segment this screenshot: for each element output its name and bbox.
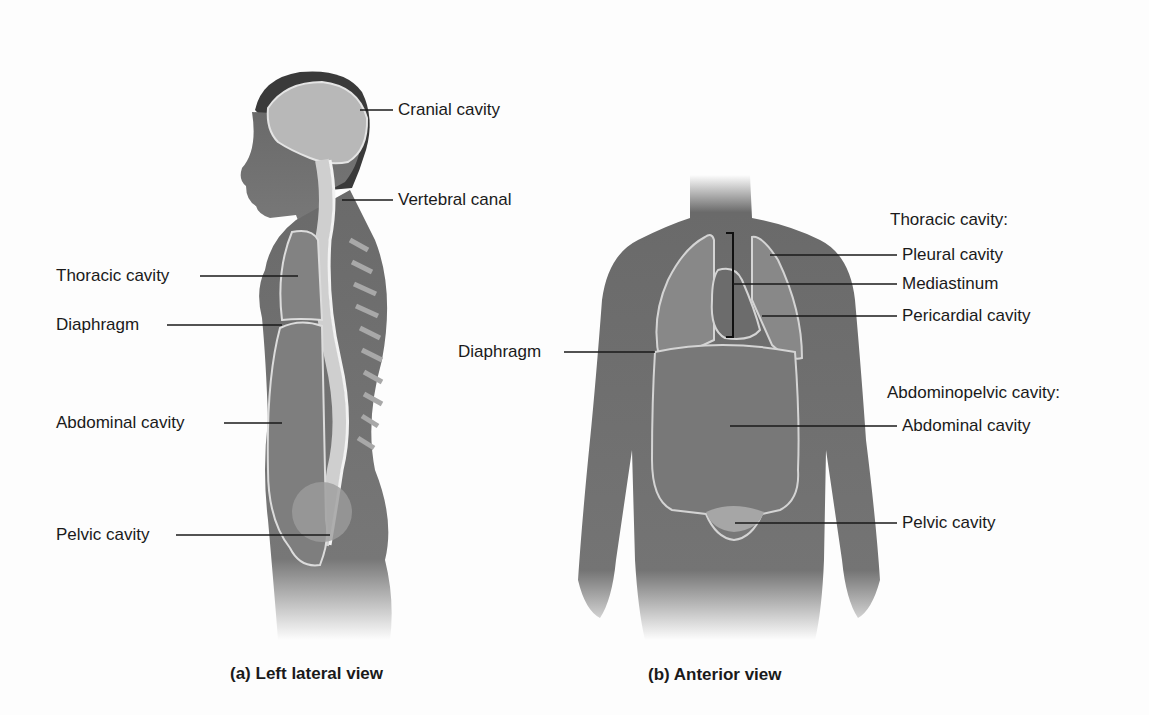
anatomy-figures <box>0 0 1149 715</box>
label-abdominopelvic-cavity-header: Abdominopelvic cavity: <box>887 383 1060 403</box>
label-thoracic-cavity-lateral: Thoracic cavity <box>56 266 169 286</box>
label-pelvic-cavity-lateral: Pelvic cavity <box>56 525 150 545</box>
label-pelvic-cavity-anterior: Pelvic cavity <box>902 513 996 533</box>
anterior-body-figure <box>578 175 880 640</box>
label-vertebral-canal: Vertebral canal <box>398 190 511 210</box>
lateral-body-figure <box>241 71 392 640</box>
label-diaphragm-lateral: Diaphragm <box>56 315 139 335</box>
label-pericardial-cavity: Pericardial cavity <box>902 306 1031 326</box>
label-cranial-cavity: Cranial cavity <box>398 100 500 120</box>
label-mediastinum: Mediastinum <box>902 274 998 294</box>
label-abdominal-cavity-lateral: Abdominal cavity <box>56 413 185 433</box>
caption-lateral-view: (a) Left lateral view <box>230 664 383 684</box>
caption-anterior-view: (b) Anterior view <box>648 665 782 685</box>
label-diaphragm-anterior: Diaphragm <box>458 342 541 362</box>
label-abdominal-cavity-anterior: Abdominal cavity <box>902 416 1031 436</box>
label-pleural-cavity: Pleural cavity <box>902 245 1003 265</box>
label-thoracic-cavity-header: Thoracic cavity: <box>890 210 1008 230</box>
